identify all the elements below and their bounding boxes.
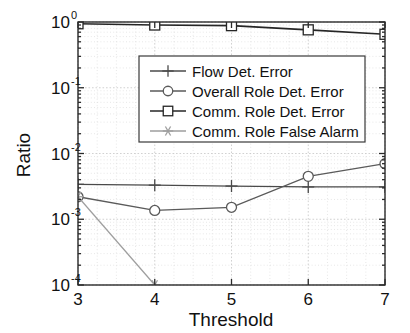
x-tick-label: 3 [73, 290, 82, 309]
legend-label: Comm. Role False Alarm [192, 123, 359, 140]
y-tick-label: 10 [51, 210, 70, 229]
x-tick-label: 7 [380, 290, 389, 309]
log-line-chart: 10010-110-210-310-4 34567 Ratio Threshol… [0, 0, 410, 333]
y-tick-label: 10 [51, 276, 70, 295]
y-axis-label: Ratio [13, 133, 34, 177]
y-tick-exponent: -1 [71, 75, 81, 87]
y-tick-exponent: -4 [71, 272, 81, 284]
y-tick-exponent: 0 [71, 9, 77, 21]
y-tick-label: 10 [51, 145, 70, 164]
x-tick-label: 5 [227, 290, 236, 309]
legend-label: Comm. Role Det. Error [192, 103, 345, 120]
x-tick-label: 4 [150, 290, 159, 309]
y-tick-label: 10 [51, 13, 70, 32]
x-tick-label: 6 [304, 290, 313, 309]
y-tick-label: 10 [51, 79, 70, 98]
y-tick-exponent: -3 [71, 206, 81, 218]
x-axis-label: Threshold [189, 309, 274, 330]
chart-legend: Flow Det. ErrorOverall Role Det. ErrorCo… [139, 56, 365, 142]
legend-label: Flow Det. Error [192, 63, 293, 80]
y-tick-exponent: -2 [71, 141, 81, 153]
chart-figure: 10010-110-210-310-4 34567 Ratio Threshol… [0, 0, 410, 333]
legend-label: Overall Role Det. Error [192, 83, 344, 100]
